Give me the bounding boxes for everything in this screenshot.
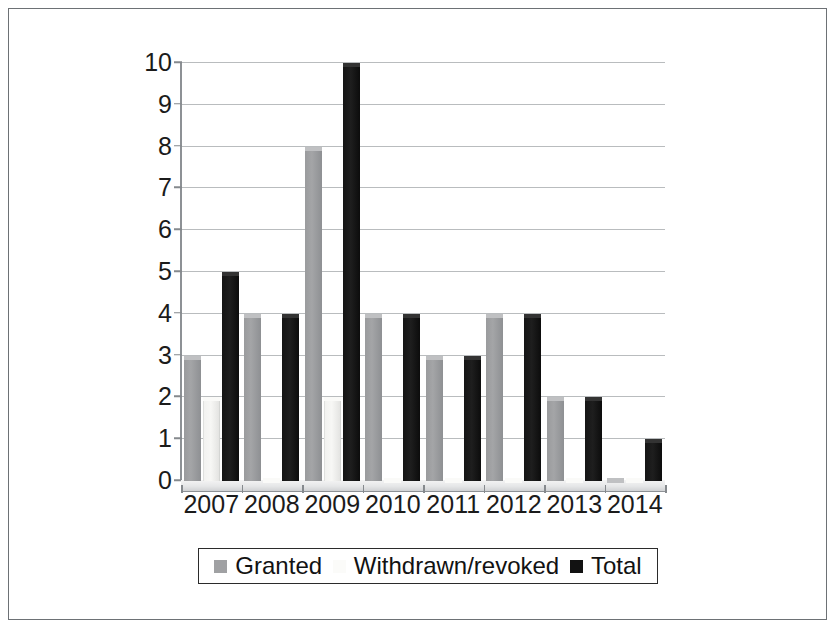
bar-face: [222, 276, 239, 481]
y-tick-label-4: 4: [132, 300, 172, 325]
y-tick-label-10: 10: [132, 50, 172, 75]
chart-legend: GrantedWithdrawn/revokedTotal: [198, 548, 658, 584]
bar-face: [426, 360, 443, 481]
bar-total-2011: [464, 356, 481, 481]
y-tick-label-2: 2: [132, 384, 172, 409]
y-tick-label-5: 5: [132, 259, 172, 284]
bar-withdrawn-revoked-2009: [324, 397, 341, 481]
bar-face: [547, 401, 564, 481]
bar-face: [282, 318, 299, 481]
bar-face: [203, 401, 220, 481]
bar-cap: [384, 478, 401, 483]
x-tick-label-2012: 2012: [486, 492, 542, 517]
bar-face: [324, 401, 341, 481]
bar-cap: [263, 478, 280, 483]
legend-item-granted[interactable]: Granted: [214, 554, 322, 578]
bar-face: [365, 318, 382, 481]
legend-label: Withdrawn/revoked: [354, 554, 559, 578]
bar-total-2013: [585, 397, 602, 481]
y-tick-label-1: 1: [132, 426, 172, 451]
bar-withdrawn-revoked-2013: [566, 478, 583, 481]
bar-total-2009: [343, 63, 360, 481]
y-tick-label-9: 9: [132, 91, 172, 116]
bar-withdrawn-revoked-2014: [626, 478, 643, 481]
x-axis-labels: 20072008200920102011201220132014: [181, 492, 665, 528]
bar-face: [486, 318, 503, 481]
y-tick-label-7: 7: [132, 175, 172, 200]
bar-granted-2013: [547, 397, 564, 481]
bar-face: [464, 360, 481, 481]
total-swatch-icon: [570, 560, 583, 573]
y-tick-label-8: 8: [132, 133, 172, 158]
x-tick-label-2008: 2008: [244, 492, 300, 517]
bar-granted-2014: [607, 478, 624, 481]
bar-total-2007: [222, 272, 239, 481]
x-tick-mark-8: [665, 485, 667, 493]
y-tick-label-6: 6: [132, 217, 172, 242]
bars-layer: [181, 62, 665, 481]
x-tick-label-2011: 2011: [426, 492, 480, 517]
bar-withdrawn-revoked-2008: [263, 478, 280, 481]
legend-item-total[interactable]: Total: [570, 554, 642, 578]
bar-face: [645, 443, 662, 481]
y-axis-labels: 012345678910: [128, 0, 172, 633]
bar-withdrawn-revoked-2010: [384, 478, 401, 481]
bar-granted-2010: [365, 314, 382, 481]
x-tick-label-2014: 2014: [607, 492, 663, 517]
bar-cap: [445, 478, 462, 483]
bar-withdrawn-revoked-2011: [445, 478, 462, 481]
bar-granted-2008: [244, 314, 261, 481]
y-tick-label-0: 0: [132, 468, 172, 493]
chart-figure: 012345678910 200720082009201020112012201…: [0, 0, 833, 633]
y-tick-label-3: 3: [132, 342, 172, 367]
bar-granted-2009: [305, 147, 322, 481]
bar-cap: [607, 478, 624, 483]
bar-face: [585, 401, 602, 481]
granted-swatch-icon: [214, 560, 227, 573]
x-tick-label-2010: 2010: [365, 492, 421, 517]
withdrawn-swatch-icon: [333, 560, 346, 573]
bar-face: [343, 67, 360, 481]
bar-face: [403, 318, 420, 481]
bar-face: [244, 318, 261, 481]
bar-total-2012: [524, 314, 541, 481]
bar-total-2008: [282, 314, 299, 481]
bar-withdrawn-revoked-2007: [203, 397, 220, 481]
bar-face: [305, 151, 322, 481]
bar-face: [524, 318, 541, 481]
bar-cap: [505, 478, 522, 483]
bar-withdrawn-revoked-2012: [505, 478, 522, 481]
x-tick-label-2013: 2013: [546, 492, 602, 517]
bar-total-2014: [645, 439, 662, 481]
bar-granted-2011: [426, 356, 443, 481]
bar-total-2010: [403, 314, 420, 481]
legend-item-withdrawn-revoked[interactable]: Withdrawn/revoked: [333, 554, 559, 578]
x-tick-label-2007: 2007: [183, 492, 239, 517]
bar-granted-2007: [184, 356, 201, 481]
bar-face: [184, 360, 201, 481]
bar-granted-2012: [486, 314, 503, 481]
legend-label: Granted: [235, 554, 322, 578]
bar-cap: [566, 478, 583, 483]
x-tick-label-2009: 2009: [304, 492, 360, 517]
bar-cap: [626, 478, 643, 483]
legend-label: Total: [591, 554, 642, 578]
